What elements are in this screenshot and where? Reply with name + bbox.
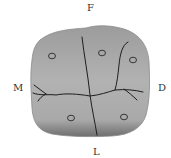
label-facial: F bbox=[87, 3, 94, 13]
tooth-diagram bbox=[0, 0, 171, 158]
label-lingual: L bbox=[93, 147, 100, 157]
label-distal: D bbox=[158, 83, 166, 93]
label-mesial: M bbox=[13, 83, 23, 93]
tooth-outline bbox=[31, 26, 150, 137]
